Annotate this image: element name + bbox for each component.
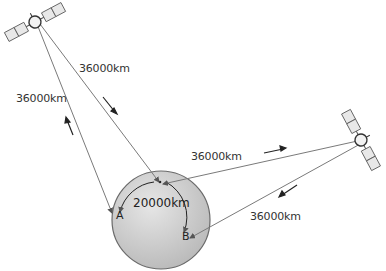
earth-globe (112, 171, 210, 269)
satellite-icon (2, 0, 66, 42)
distance-label: 36000km (191, 150, 242, 163)
distance-label: 36000km (250, 210, 301, 223)
point-b-label: B (182, 230, 190, 243)
point-a-label: A (116, 209, 124, 222)
distance-label: 36000km (79, 62, 130, 75)
satellite-icon (341, 107, 385, 171)
diagram-canvas (0, 0, 386, 271)
distance-label: 36000km (16, 92, 67, 105)
arc-distance-label: 20000km (133, 196, 190, 210)
satellite-diagram: 36000km 36000km 36000km 36000km 20000km … (0, 0, 386, 271)
